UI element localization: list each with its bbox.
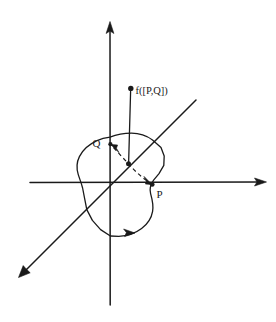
point-q-dot [108,142,112,146]
result-point-label: f([P,Q]) [136,85,169,97]
connector-group [129,92,131,164]
figure-container: f([P,Q]) Q P [0,0,276,322]
math-diagram-svg: f([P,Q]) Q P [0,0,276,322]
diagonal-axis-group [19,100,197,278]
center-point-dot [126,161,131,166]
point-p-label: P [157,188,163,200]
point-p-dot [150,182,155,187]
result-connector-line [129,92,131,164]
horizontal-axis-line [30,182,261,183]
point-q-label: Q [93,137,101,149]
vertical-axis-group [106,22,114,306]
result-point-dot [128,86,133,91]
